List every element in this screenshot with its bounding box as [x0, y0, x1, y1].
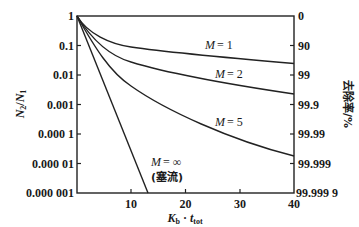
label-plug-flow: (塞流) — [151, 170, 183, 184]
svg-text:0.01: 0.01 — [53, 68, 74, 82]
svg-text:99: 99 — [298, 68, 310, 82]
label-m2: M= 2 — [214, 67, 243, 81]
svg-text:0.1: 0.1 — [59, 39, 74, 53]
svg-text:20: 20 — [180, 197, 192, 211]
svg-text:10: 10 — [125, 197, 137, 211]
plot-frame — [77, 16, 294, 193]
svg-text:99.999: 99.999 — [298, 157, 331, 171]
curve-m2 — [77, 16, 294, 94]
x-axis-label: Kb·ttot — [166, 211, 202, 226]
svg-text:1: 1 — [68, 9, 74, 23]
y2-axis-label: 去除率/% — [341, 80, 355, 128]
svg-text:90: 90 — [298, 39, 310, 53]
svg-text:99.99: 99.99 — [298, 127, 325, 141]
x-tick-labels: 10 20 30 40 — [125, 197, 300, 211]
svg-text:40: 40 — [288, 197, 300, 211]
svg-text:99.999 9: 99.999 9 — [296, 186, 338, 200]
svg-text:0.001: 0.001 — [47, 98, 74, 112]
right-y-tick-labels: 0 90 99 99.9 99.99 99.999 99.999 9 — [296, 9, 338, 200]
svg-text:30: 30 — [234, 197, 246, 211]
removal-ratio-chart: 1 0.1 0.01 0.001 0.000 1 0.000 01 0.000 … — [0, 0, 359, 227]
svg-text:0.000 1: 0.000 1 — [38, 127, 74, 141]
svg-text:0: 0 — [298, 9, 304, 23]
label-m1: M= 1 — [204, 38, 233, 52]
svg-text:0.000 001: 0.000 001 — [26, 186, 74, 200]
curve-m1 — [77, 16, 294, 64]
y-axis-label: N2/N1 — [13, 90, 28, 120]
svg-text:0.000 01: 0.000 01 — [32, 157, 74, 171]
curve-m5 — [77, 16, 294, 156]
svg-text:99.9: 99.9 — [298, 98, 319, 112]
label-m5: M= 5 — [214, 115, 243, 129]
left-y-tick-labels: 1 0.1 0.01 0.001 0.000 1 0.000 01 0.000 … — [26, 9, 74, 200]
label-m-infinity: M= ∞ — [150, 155, 181, 169]
